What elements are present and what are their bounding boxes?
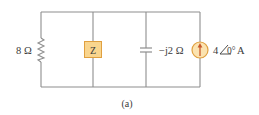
source-angle: 0° [227, 46, 236, 56]
circuit-diagram: 8 Ω Z −j2 Ω 4 0° A (a) [0, 0, 259, 115]
capacitor-label: −j2 Ω [159, 45, 184, 56]
figure-caption: (a) [121, 98, 132, 110]
source-magnitude: 4 [213, 45, 219, 56]
source-label: 4 0° A [213, 45, 245, 56]
resistor-label: 8 Ω [16, 45, 32, 56]
source-unit: A [237, 45, 245, 56]
impedance-label: Z [90, 45, 96, 56]
resistor-icon [38, 38, 44, 62]
current-source-icon [192, 42, 208, 58]
capacitor-icon [140, 48, 152, 52]
